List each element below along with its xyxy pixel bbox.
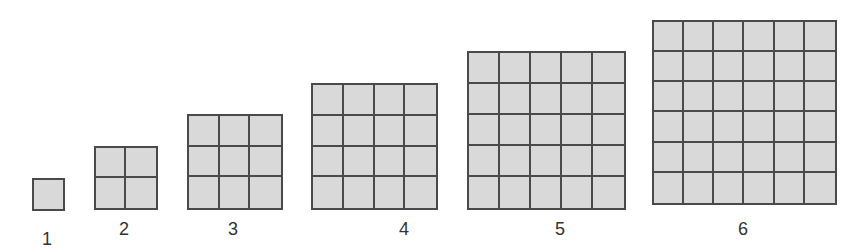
grid-cell — [744, 112, 774, 142]
grid-cell — [250, 147, 281, 178]
grid-cell — [654, 82, 684, 112]
grid-cell — [714, 173, 744, 203]
grid-cell — [744, 143, 774, 173]
grid-cell — [684, 22, 714, 52]
grid-cell — [714, 22, 744, 52]
grid-cell — [375, 147, 406, 178]
grid-cell — [250, 177, 281, 208]
grid-cell — [405, 177, 436, 208]
grid-cell — [562, 115, 593, 146]
grid-cell — [96, 148, 126, 178]
grid-cell — [805, 173, 835, 203]
square-grid-1 — [32, 178, 65, 211]
grid-cell — [775, 173, 805, 203]
grid-cell — [220, 147, 251, 178]
grid-cell — [805, 52, 835, 82]
grid-cell — [775, 52, 805, 82]
grid-cell — [714, 82, 744, 112]
grid-cell — [744, 173, 774, 203]
grid-cell — [344, 116, 375, 147]
grid-cell — [126, 178, 156, 208]
grid-cell — [531, 115, 562, 146]
grid-cell — [126, 148, 156, 178]
grid-cell — [344, 85, 375, 116]
grid-cell — [405, 116, 436, 147]
grid-cell — [375, 116, 406, 147]
square-label-4: 4 — [399, 220, 409, 238]
square-label-2: 2 — [119, 220, 129, 238]
grid-cell — [654, 52, 684, 82]
grid-cell — [684, 52, 714, 82]
grid-cell — [654, 173, 684, 203]
square-label-1: 1 — [42, 230, 52, 248]
grid-cell — [469, 53, 500, 84]
grid-cell — [313, 85, 344, 116]
grid-cell — [684, 82, 714, 112]
grid-cell — [654, 22, 684, 52]
grid-cell — [593, 146, 624, 177]
grid-cell — [531, 146, 562, 177]
grid-cell — [531, 84, 562, 115]
square-grid-2 — [94, 146, 158, 210]
grid-cell — [714, 52, 744, 82]
grid-cell — [500, 177, 531, 208]
grid-cell — [805, 143, 835, 173]
grid-cell — [775, 143, 805, 173]
grid-cell — [313, 177, 344, 208]
grid-cell — [775, 22, 805, 52]
grid-cell — [562, 146, 593, 177]
grid-cell — [313, 147, 344, 178]
grid-cell — [344, 177, 375, 208]
grid-cell — [189, 177, 220, 208]
grid-cell — [405, 85, 436, 116]
grid-cell — [250, 116, 281, 147]
grid-cell — [654, 112, 684, 142]
grid-cell — [805, 22, 835, 52]
grid-cell — [562, 53, 593, 84]
grid-cell — [220, 177, 251, 208]
grid-cell — [654, 143, 684, 173]
square-grid-6 — [652, 20, 837, 205]
grid-cell — [593, 53, 624, 84]
grid-cell — [405, 147, 436, 178]
grid-cell — [500, 115, 531, 146]
grid-cell — [469, 177, 500, 208]
square-grid-4 — [311, 83, 438, 210]
grid-cell — [500, 146, 531, 177]
grid-cell — [531, 53, 562, 84]
square-grid-5 — [467, 51, 626, 210]
grid-cell — [593, 177, 624, 208]
grid-cell — [593, 115, 624, 146]
grid-cell — [500, 53, 531, 84]
grid-cell — [593, 84, 624, 115]
square-label-3: 3 — [228, 220, 238, 238]
grid-cell — [775, 82, 805, 112]
grid-cell — [744, 82, 774, 112]
grid-cell — [189, 147, 220, 178]
grid-cell — [469, 115, 500, 146]
grid-cell — [500, 84, 531, 115]
grid-cell — [744, 22, 774, 52]
grid-cell — [375, 177, 406, 208]
grid-cell — [684, 143, 714, 173]
grid-cell — [220, 116, 251, 147]
grid-cell — [344, 147, 375, 178]
grid-cell — [189, 116, 220, 147]
grid-cell — [375, 85, 406, 116]
grid-cell — [531, 177, 562, 208]
grid-cell — [684, 112, 714, 142]
grid-cell — [562, 177, 593, 208]
grid-cell — [714, 112, 744, 142]
grid-cell — [34, 180, 63, 209]
grid-cell — [744, 52, 774, 82]
grid-cell — [469, 84, 500, 115]
grid-cell — [805, 112, 835, 142]
square-label-5: 5 — [555, 220, 565, 238]
grid-cell — [469, 146, 500, 177]
grid-cell — [805, 82, 835, 112]
square-grid-3 — [187, 114, 283, 210]
grid-cell — [96, 178, 126, 208]
square-label-6: 6 — [738, 220, 748, 238]
grid-cell — [562, 84, 593, 115]
grid-cell — [714, 143, 744, 173]
